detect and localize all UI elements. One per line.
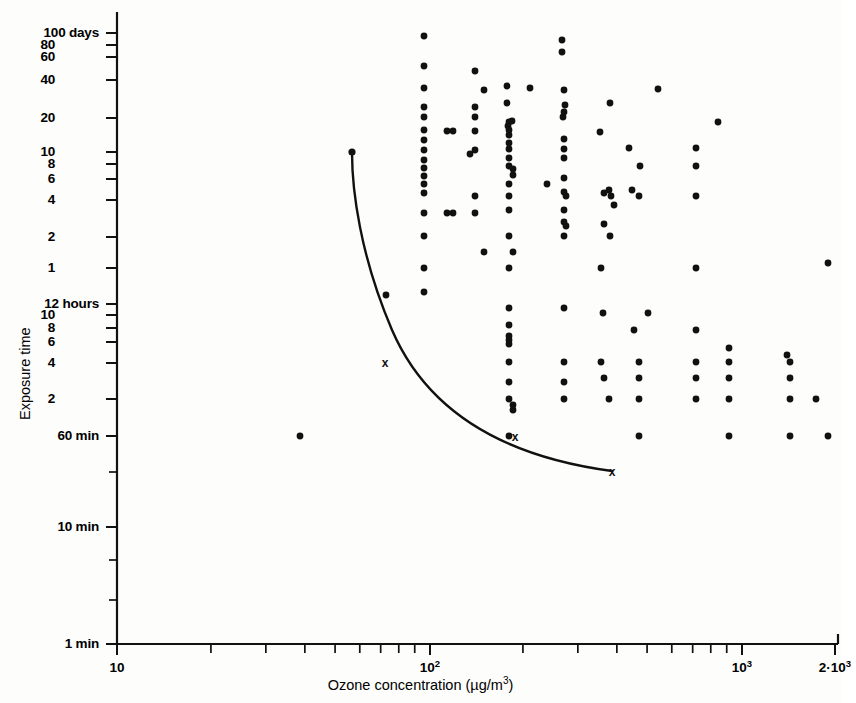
y-tick-label: 10 min <box>0 520 99 534</box>
data-point <box>693 375 700 382</box>
data-point <box>561 155 568 162</box>
data-point <box>559 37 566 44</box>
threshold-curve: xxx <box>348 148 615 478</box>
data-point <box>787 359 794 366</box>
data-point <box>444 210 451 217</box>
data-point <box>561 233 568 240</box>
data-point <box>601 190 608 197</box>
data-point <box>510 166 517 173</box>
data-point <box>693 145 700 152</box>
y-tick-label: 2 <box>0 230 55 244</box>
data-point <box>506 181 513 188</box>
data-point <box>506 322 513 329</box>
data-point <box>825 260 832 267</box>
data-point <box>421 85 428 92</box>
data-point <box>607 233 614 240</box>
data-point <box>693 193 700 200</box>
data-point <box>421 147 428 154</box>
x-tick-label: 103 <box>702 661 782 675</box>
data-point <box>825 433 832 440</box>
y-tick-label: 60 min <box>0 429 99 443</box>
data-point <box>601 375 608 382</box>
data-point <box>631 327 638 334</box>
data-point <box>784 352 791 359</box>
data-point <box>472 114 479 121</box>
data-point <box>421 173 428 180</box>
data-point <box>636 375 643 382</box>
data-point <box>813 396 820 403</box>
data-point <box>510 407 517 414</box>
y-tick-label: 1 <box>0 261 55 275</box>
x-axis-title: Ozone concentration (µg/m3) <box>0 678 841 693</box>
data-point <box>504 83 511 90</box>
data-point <box>655 86 662 93</box>
data-point <box>726 433 733 440</box>
data-point <box>608 193 615 200</box>
data-point <box>561 146 568 153</box>
data-point <box>636 193 643 200</box>
data-point <box>421 165 428 172</box>
curve-x-marker: x <box>382 356 389 370</box>
x-tick-label: 10 <box>77 661 157 675</box>
data-point <box>472 104 479 111</box>
data-point <box>787 433 794 440</box>
data-point <box>506 207 513 214</box>
data-point <box>297 433 304 440</box>
data-point <box>607 100 614 107</box>
data-point <box>726 396 733 403</box>
data-point <box>472 68 479 75</box>
data-point <box>506 146 513 153</box>
data-point <box>506 140 513 147</box>
y-tick-label: 10 <box>0 308 55 322</box>
data-point <box>598 359 605 366</box>
data-point <box>637 163 644 170</box>
data-point <box>506 396 513 403</box>
data-point <box>563 193 570 200</box>
data-point <box>606 396 613 403</box>
data-point <box>509 118 516 125</box>
data-point <box>559 49 566 56</box>
y-axis-ticks <box>106 33 117 644</box>
data-point <box>561 396 568 403</box>
data-point <box>506 379 513 386</box>
y-tick-label: 4 <box>0 193 55 207</box>
data-point <box>561 109 568 116</box>
y-tick-label: 40 <box>0 73 55 87</box>
data-point <box>510 249 517 256</box>
y-tick-label: 6 <box>0 172 55 186</box>
data-point <box>506 305 513 312</box>
data-point <box>693 396 700 403</box>
data-point <box>561 136 568 143</box>
y-tick-label: 60 <box>0 50 55 64</box>
data-point <box>506 127 513 134</box>
data-point <box>597 129 604 136</box>
data-point <box>561 305 568 312</box>
data-point <box>563 223 570 230</box>
x-axis-ticks <box>117 644 835 655</box>
data-point <box>561 359 568 366</box>
data-point <box>472 128 479 135</box>
data-point <box>450 128 457 135</box>
data-point <box>715 119 722 126</box>
data-point <box>693 163 700 170</box>
data-point <box>726 345 733 352</box>
data-point <box>562 102 569 109</box>
curve-start-marker <box>348 148 355 155</box>
data-point <box>472 210 479 217</box>
data-point <box>611 202 618 209</box>
curve-x-marker: x <box>512 430 519 444</box>
data-point <box>444 128 451 135</box>
data-point <box>561 379 568 386</box>
x-tick-label: 2·103 <box>795 661 856 675</box>
data-point <box>383 292 390 299</box>
data-point <box>506 193 513 200</box>
data-point <box>450 210 457 217</box>
data-point <box>472 193 479 200</box>
data-point <box>421 137 428 144</box>
data-point <box>600 310 607 317</box>
y-axis-title: Exposure time <box>18 327 33 420</box>
data-point <box>421 289 428 296</box>
data-point <box>481 249 488 256</box>
